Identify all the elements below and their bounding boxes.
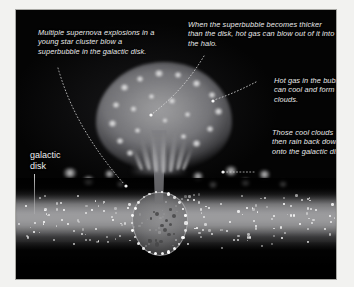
bubble-cloud-knot (120, 84, 129, 91)
bubble-cloud-knot (126, 150, 134, 156)
bubble-cloud-knot (184, 112, 191, 117)
bubble-cloud-knot (112, 102, 120, 108)
bubble-cloud-knot (168, 98, 176, 104)
bubble-cloud-knot (192, 140, 201, 147)
bubble-cloud-knot (214, 108, 223, 115)
bubble-cloud-knot (136, 76, 144, 82)
figure-container: Multiple supernova explosions in a young… (0, 0, 354, 287)
bubble-cloud-knot (116, 138, 124, 144)
bubble-cloud-knot (192, 80, 201, 87)
halo-cloud (104, 170, 115, 178)
bubble-cloud-knot (206, 126, 214, 132)
bubble-cloud-knot (130, 106, 137, 112)
caption-blowout: When the superbubble becomes thicker tha… (188, 20, 336, 48)
cavity-speckle (155, 212, 159, 216)
bubble-cloud-knot (148, 94, 155, 99)
bubble-cloud-knot (180, 134, 187, 139)
caption-cooling: Hot gas in the bubble can cool and form … (274, 76, 336, 104)
label-galactic-disk: galactic disk (30, 150, 82, 171)
bubble-cloud-knot (174, 72, 182, 78)
bubble-cloud-knot (154, 70, 164, 77)
galactic-disk-pointer (34, 174, 35, 214)
caption-rain: Those cool clouds then rain back down on… (272, 128, 336, 156)
caption-supernova: Multiple supernova explosions in a young… (38, 28, 164, 56)
cavity-speckle (159, 240, 162, 243)
bubble-cloud-knot (208, 92, 216, 98)
bubble-cloud-knot (134, 128, 141, 133)
cavity-speckle (172, 214, 176, 218)
halo-cloud (224, 166, 238, 176)
diagram-panel: Multiple supernova explosions in a young… (16, 10, 336, 279)
cavity-speckle (169, 208, 172, 211)
bubble-cloud-knot (108, 120, 117, 127)
bubble-cloud-knot (162, 118, 168, 123)
cavity-speckle (160, 224, 164, 228)
